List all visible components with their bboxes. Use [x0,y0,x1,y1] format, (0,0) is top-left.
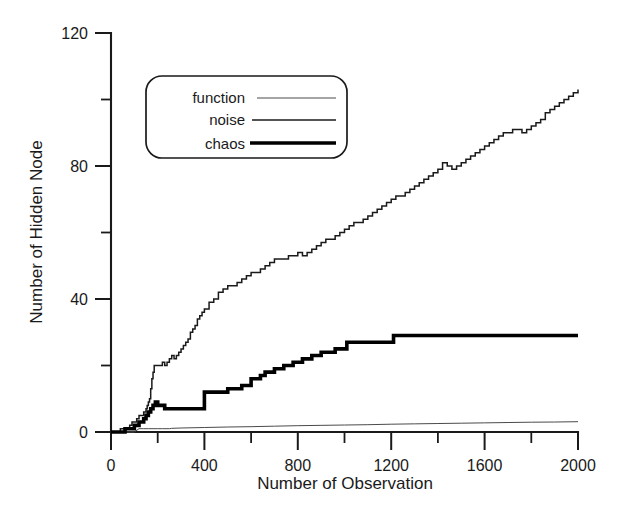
x-axis-ticks [111,432,578,450]
chart-container: 04080120 0400800120016002000 function no… [0,0,618,507]
y-axis-ticks [95,33,111,432]
series-line-function [111,422,578,432]
y-axis-title: Number of Hidden Node [27,140,46,323]
x-tick-label: 800 [284,457,311,474]
legend-label-function: function [192,89,245,106]
x-tick-label: 0 [107,457,116,474]
y-tick-label: 120 [61,25,88,42]
y-tick-label: 40 [70,291,88,308]
legend-box [146,76,347,158]
legend: function noise chaos [146,76,347,158]
x-axis-title: Number of Observation [257,474,433,493]
x-tick-label: 400 [191,457,218,474]
y-tick-label: 0 [79,424,88,441]
y-axis-tick-labels: 04080120 [61,25,88,441]
x-axis-tick-labels: 0400800120016002000 [107,457,596,474]
legend-label-chaos: chaos [205,135,245,152]
legend-label-noise: noise [209,111,245,128]
x-tick-label: 1600 [467,457,503,474]
y-tick-label: 80 [70,158,88,175]
hidden-node-line-chart: 04080120 0400800120016002000 function no… [0,0,618,507]
x-tick-label: 2000 [560,457,596,474]
x-tick-label: 1200 [373,457,409,474]
